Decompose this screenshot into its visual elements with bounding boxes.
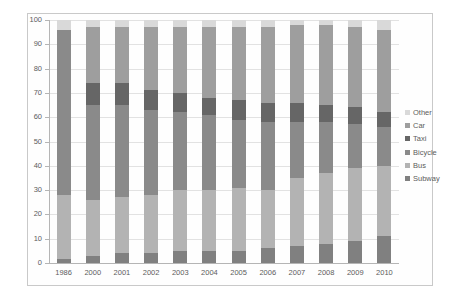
bar-segment-other[interactable] [377,20,391,30]
legend-label: Bus [413,161,426,170]
bar-segment-bus[interactable] [377,166,391,236]
bar-segment-subway[interactable] [115,253,129,263]
legend-swatch-icon [405,150,410,155]
bar-segment-car[interactable] [115,27,129,83]
legend-item[interactable]: Bicycle [405,146,455,159]
bar-segment-other[interactable] [144,20,158,27]
bar-segment-taxi[interactable] [173,93,187,112]
bar-segment-other[interactable] [202,20,216,27]
legend-item[interactable]: Other [405,106,455,119]
bar-segment-taxi[interactable] [115,83,129,105]
bar-stack[interactable] [261,20,275,263]
bar-segment-bus[interactable] [86,200,100,256]
bar-segment-taxi[interactable] [319,105,333,122]
bar-segment-bicycle[interactable] [173,112,187,190]
bar-segment-bicycle[interactable] [261,122,275,190]
legend-item[interactable]: Subway [405,172,455,185]
bar-segment-bicycle[interactable] [86,105,100,200]
bar-segment-taxi[interactable] [348,107,362,124]
bar-segment-car[interactable] [173,27,187,93]
legend-swatch-icon [405,123,410,128]
bar-segment-subway[interactable] [202,251,216,263]
bar-segment-taxi[interactable] [144,90,158,109]
bar-segment-taxi[interactable] [202,98,216,115]
legend-label: Subway [413,174,440,183]
bar-stack[interactable] [202,20,216,263]
bar-segment-car[interactable] [86,27,100,83]
bar-segment-subway[interactable] [348,241,362,263]
legend-swatch-icon [405,163,410,168]
bar-segment-bicycle[interactable] [57,30,71,195]
bar-segment-subway[interactable] [290,246,304,263]
bar-segment-other[interactable] [232,20,246,27]
bar-stack[interactable] [173,20,187,263]
bar-segment-bus[interactable] [261,190,275,248]
bar-segment-subway[interactable] [261,248,275,263]
stacked-bar-chart: 0102030405060708090100 19862000200120022… [0,0,458,301]
bar-segment-bicycle[interactable] [290,122,304,178]
bar-stack[interactable] [57,20,71,263]
bar-segment-bus[interactable] [232,188,246,251]
bar-segment-bicycle[interactable] [319,122,333,173]
legend-label: Other [413,108,432,117]
bar-segment-taxi[interactable] [261,103,275,122]
legend-label: Taxi [413,134,426,143]
bar-segment-bus[interactable] [115,197,129,253]
bar-segment-car[interactable] [232,27,246,100]
bar-segment-bus[interactable] [319,173,333,243]
bar-segment-bicycle[interactable] [202,115,216,190]
bar-stack[interactable] [290,20,304,263]
bar-stack[interactable] [348,20,362,263]
bar-segment-car[interactable] [377,30,391,113]
legend-swatch-icon [405,176,410,181]
bar-segment-car[interactable] [348,27,362,107]
legend-item[interactable]: Bus [405,159,455,172]
bar-segment-taxi[interactable] [290,103,304,122]
bar-segment-bicycle[interactable] [115,105,129,197]
bar-segment-other[interactable] [57,20,71,30]
bar-segment-car[interactable] [319,25,333,105]
bar-segment-other[interactable] [115,20,129,27]
bar-segment-other[interactable] [86,20,100,27]
legend-item[interactable]: Taxi [405,132,455,145]
bar-segment-bus[interactable] [202,190,216,251]
bar-segment-taxi[interactable] [86,83,100,105]
bar-segment-taxi[interactable] [232,100,246,119]
bar-segment-car[interactable] [202,27,216,97]
bar-segment-bus[interactable] [57,195,71,259]
bar-segment-bicycle[interactable] [144,110,158,195]
bars-layer [0,0,458,301]
legend-label: Car [413,121,425,130]
bar-segment-car[interactable] [144,27,158,90]
bar-stack[interactable] [377,20,391,263]
bar-segment-bicycle[interactable] [232,120,246,188]
bar-segment-subway[interactable] [144,253,158,263]
legend-item[interactable]: Car [405,119,455,132]
bar-segment-bicycle[interactable] [377,127,391,166]
bar-segment-bus[interactable] [173,190,187,251]
bar-segment-other[interactable] [290,20,304,25]
bar-segment-taxi[interactable] [377,112,391,127]
bar-segment-bicycle[interactable] [348,124,362,168]
bar-segment-other[interactable] [173,20,187,27]
bar-segment-subway[interactable] [232,251,246,263]
bar-stack[interactable] [319,20,333,263]
bar-segment-other[interactable] [319,20,333,25]
bar-segment-subway[interactable] [86,256,100,263]
bar-segment-bus[interactable] [290,178,304,246]
x-tick-label: 2010 [367,268,401,277]
bar-segment-car[interactable] [261,27,275,102]
bar-segment-other[interactable] [261,20,275,27]
bar-segment-subway[interactable] [319,244,333,263]
bar-stack[interactable] [115,20,129,263]
bar-segment-subway[interactable] [173,251,187,263]
bar-stack[interactable] [86,20,100,263]
bar-segment-subway[interactable] [377,236,391,263]
bar-stack[interactable] [232,20,246,263]
bar-segment-other[interactable] [348,20,362,27]
bar-stack[interactable] [144,20,158,263]
bar-segment-car[interactable] [290,25,304,103]
bar-segment-subway[interactable] [57,259,71,263]
bar-segment-bus[interactable] [348,168,362,241]
bar-segment-bus[interactable] [144,195,158,253]
